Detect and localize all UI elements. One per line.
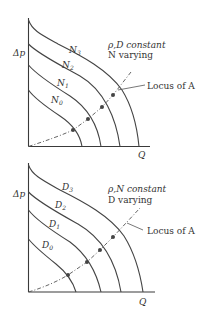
- curve-label-n3: N3: [68, 45, 81, 56]
- condition-line1: ρ,D constant: [107, 40, 166, 50]
- pump-curves-figure: Δp Q N0 N1 N2 N3 Locus of A ρ,D constant…: [0, 0, 203, 318]
- locus-of-a-line: [29, 72, 132, 147]
- operating-point-d3: [111, 235, 115, 239]
- panel-bottom: Δp Q D0 D1 D2 D3 Locus of A ρ,N constant…: [12, 163, 195, 307]
- operating-point-d2: [98, 248, 102, 252]
- x-axis-label: Q: [138, 150, 146, 160]
- operating-point-n1: [86, 117, 90, 121]
- curve-label-d2: D2: [54, 200, 66, 211]
- y-axis-label: Δp: [12, 189, 25, 199]
- condition-line2: D varying: [108, 195, 153, 205]
- curve-label-n2: N2: [61, 60, 74, 71]
- y-axis-label: Δp: [12, 48, 25, 58]
- curve-n3: [29, 20, 140, 147]
- operating-point-d0: [66, 273, 70, 277]
- curve-label-d3: D3: [61, 182, 73, 193]
- operating-point-n3: [111, 93, 115, 97]
- operating-point-n0: [71, 128, 75, 132]
- operating-point-d1: [85, 260, 89, 264]
- condition-line2: N varying: [108, 50, 153, 60]
- locus-label: Locus of A: [147, 226, 195, 236]
- operating-point-n2: [100, 105, 104, 109]
- curve-label-d1: D1: [48, 219, 60, 230]
- panel-top: Δp Q N0 N1 N2 N3 Locus of A ρ,D constant…: [12, 18, 195, 160]
- condition-line1: ρ,N constant: [107, 184, 167, 194]
- locus-leader-line: [127, 223, 143, 230]
- curve-label-n1: N1: [56, 78, 69, 89]
- curve-d1: [29, 210, 102, 292]
- locus-leader-line: [118, 85, 145, 90]
- x-axis-label: Q: [139, 297, 147, 307]
- locus-of-a-line: [29, 208, 141, 292]
- locus-label: Locus of A: [147, 81, 195, 91]
- curve-label-d0: D0: [41, 240, 53, 251]
- curve-label-n0: N0: [50, 95, 63, 106]
